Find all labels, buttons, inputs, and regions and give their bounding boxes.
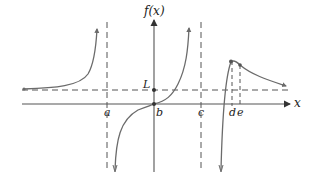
curve-branch-left — [24, 29, 97, 89]
label-L: L — [142, 78, 150, 91]
local-max-point-d — [229, 60, 233, 64]
point-e — [238, 63, 242, 67]
label-c: c — [198, 106, 204, 119]
label-a: a — [104, 106, 111, 119]
label-b: b — [156, 106, 163, 119]
curve-start-point — [22, 87, 25, 90]
label-e: e — [237, 106, 244, 119]
y-axis-label: f(x) — [143, 4, 165, 18]
curve-branch-middle — [115, 28, 189, 170]
x-axis-label: x — [294, 96, 301, 110]
label-d: d — [229, 106, 236, 119]
point-L-intercept — [152, 88, 156, 92]
function-graph: f(x) x L a b c d e — [0, 0, 311, 183]
